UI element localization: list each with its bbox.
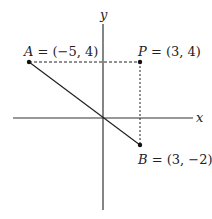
point-b	[138, 143, 142, 147]
point-b-name: B	[137, 152, 148, 167]
point-a	[27, 60, 31, 64]
y-axis-label: y	[99, 7, 108, 22]
point-b-value: = (3, −2)	[148, 152, 212, 167]
x-axis-label: x	[196, 110, 204, 125]
point-p-label: P = (3, 4)	[137, 44, 201, 59]
point-p	[138, 60, 142, 64]
point-a-value: = (−5, 4)	[33, 44, 98, 59]
point-p-name: P	[137, 44, 147, 59]
point-a-name: A	[23, 44, 33, 59]
coordinate-diagram: x y A = (−5, 4) P = (3, 4) B = (3, −2)	[0, 0, 212, 219]
point-b-label: B = (3, −2)	[137, 152, 212, 167]
segment-a-b	[29, 62, 140, 145]
point-p-value: = (3, 4)	[147, 44, 201, 59]
point-a-label: A = (−5, 4)	[23, 44, 98, 59]
